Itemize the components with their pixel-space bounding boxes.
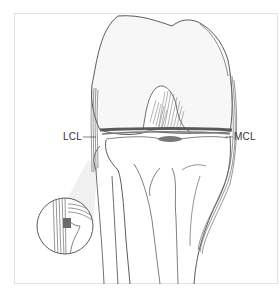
tibial-spine: [158, 136, 182, 142]
tibial-tuberosity-left: [134, 164, 160, 284]
lcl-label: LCL: [63, 132, 82, 142]
mcl-label: MCL: [234, 132, 256, 142]
tibial-tuberosity-center: [149, 168, 178, 284]
knee-illustration: [0, 0, 280, 295]
tibia: [106, 136, 231, 284]
meniscus-band: [100, 129, 232, 131]
inset-lcl-attachment: [63, 218, 71, 228]
